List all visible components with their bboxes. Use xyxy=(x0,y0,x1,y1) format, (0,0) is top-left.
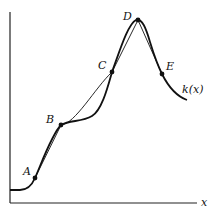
x-axis-label: x xyxy=(201,196,208,209)
point-a xyxy=(33,176,38,181)
point-d xyxy=(136,18,141,23)
chord-ab xyxy=(35,125,61,178)
chord-cd xyxy=(112,20,138,72)
label-c: C xyxy=(98,59,107,72)
label-d: D xyxy=(122,10,132,23)
point-e xyxy=(160,72,165,77)
label-e: E xyxy=(165,60,174,73)
label-a: A xyxy=(22,165,31,178)
point-c xyxy=(110,70,115,75)
chord-de xyxy=(138,20,162,74)
function-diagram: x A B C D E k(x) xyxy=(0,0,212,212)
function-label: k(x) xyxy=(182,83,203,96)
label-b: B xyxy=(45,113,54,126)
function-curve xyxy=(10,20,187,190)
point-b xyxy=(59,123,64,128)
